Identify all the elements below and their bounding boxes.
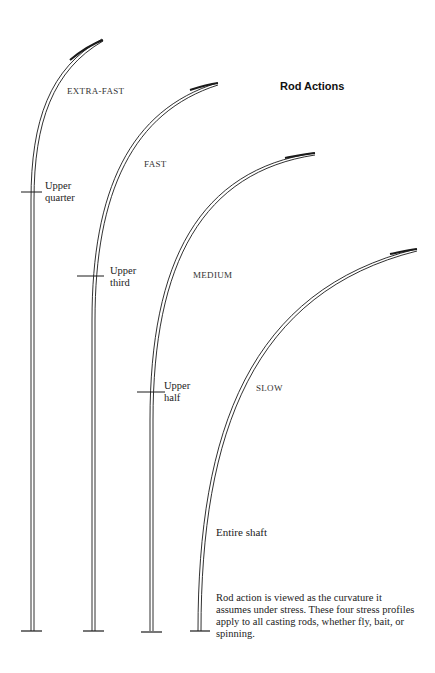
label-fast: FAST bbox=[144, 159, 167, 169]
flex-point-label-extra-fast: Upper quarter bbox=[45, 180, 75, 204]
label-slow: SLOW bbox=[256, 383, 283, 393]
flex-point-label-fast: Upper third bbox=[110, 265, 136, 289]
flex-point-label-slow: Entire shaft bbox=[216, 526, 267, 538]
rod-actions-diagram bbox=[0, 0, 435, 673]
diagram-title: Rod Actions bbox=[280, 80, 344, 92]
caption-paragraph: Rod action is viewed as the curvature it… bbox=[216, 592, 416, 640]
label-medium: MEDIUM bbox=[193, 270, 232, 280]
rod-slow bbox=[190, 249, 417, 631]
label-extra-fast: EXTRA-FAST bbox=[67, 86, 124, 96]
flex-point-label-medium: Upper half bbox=[164, 380, 190, 404]
rod-extra-fast bbox=[21, 39, 103, 631]
